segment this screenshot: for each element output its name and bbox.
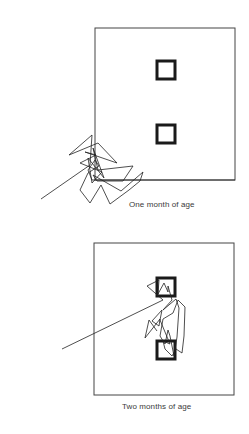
eye-scanpath [41,135,235,204]
caption-one-month: One month of age [129,200,195,209]
target-square-top [157,61,175,79]
stimulus-frame [95,28,235,180]
eye-scanpath [62,280,185,356]
panel-one-month [41,28,235,204]
scanpath-figure: One month of age Two months of age [0,0,249,434]
stimulus-frame [94,243,234,395]
panel-two-months [62,243,234,395]
scanpath-diagram [0,0,249,434]
target-square-bottom [157,125,175,143]
caption-two-months: Two months of age [122,402,191,411]
